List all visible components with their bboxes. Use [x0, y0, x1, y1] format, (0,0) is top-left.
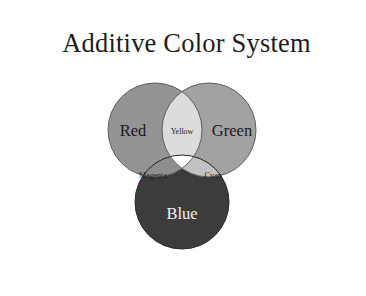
figure-root: Additive Color System	[0, 0, 366, 296]
venn-diagram: Red Green Blue Yellow Magenta Cyan	[25, 12, 348, 282]
venn-label-red: Red	[120, 121, 147, 140]
venn-label-green: Green	[212, 121, 252, 140]
venn-label-yellow: Yellow	[171, 127, 194, 136]
venn-diagram-svg: Red Green Blue Yellow Magenta Cyan	[25, 12, 348, 282]
venn-label-cyan: Cyan	[205, 171, 222, 180]
venn-label-magenta: Magenta	[139, 171, 167, 180]
venn-label-blue: Blue	[166, 204, 197, 223]
